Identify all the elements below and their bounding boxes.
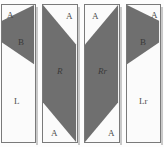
parallelogram-rr-shape bbox=[85, 5, 118, 142]
panel-2-shadow bbox=[78, 7, 80, 145]
panel-3-shadow bbox=[120, 7, 122, 145]
panel-1-graphic bbox=[2, 5, 35, 142]
figure-root: A B L A R A A Rr A A B Lr bbox=[0, 0, 164, 147]
panel-2-graphic bbox=[43, 5, 77, 142]
panel-4-graphic bbox=[127, 5, 160, 142]
triangle-b-shape bbox=[2, 5, 34, 64]
panel-1-shadow bbox=[36, 7, 38, 145]
triangle-b-shape bbox=[127, 5, 159, 64]
parallelogram-r-shape bbox=[43, 5, 76, 142]
panel-3-graphic bbox=[85, 5, 119, 142]
panel-1: A B L bbox=[1, 4, 36, 143]
panel-4: A B Lr bbox=[126, 4, 161, 143]
panel-2: A R A bbox=[42, 4, 78, 143]
panel-3: A Rr A bbox=[84, 4, 120, 143]
panel-4-shadow bbox=[161, 7, 163, 145]
